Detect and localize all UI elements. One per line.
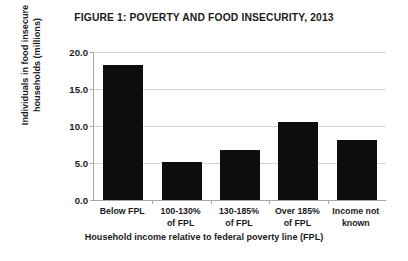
x-tick-mark	[152, 200, 153, 204]
x-axis-label-line2: of FPL	[151, 218, 209, 230]
x-axis-label-line1: 100-130%	[151, 206, 209, 218]
x-axis-label-line1: Below FPL	[93, 206, 151, 218]
bar-slot	[152, 52, 210, 200]
x-tick-mark	[211, 200, 212, 204]
y-axis-title: Individuals in food insecure households …	[18, 0, 44, 139]
y-tick-label: 5.0	[75, 158, 88, 169]
y-tick-label: 20.0	[69, 47, 88, 58]
bar-series	[94, 52, 386, 200]
bar-slot	[94, 52, 152, 200]
x-axis-label-line2: known	[327, 218, 385, 230]
x-axis-label-line1: Income not	[327, 206, 385, 218]
y-tick-label: 0.0	[75, 195, 88, 206]
bar[interactable]	[162, 162, 202, 200]
x-tick-mark	[328, 200, 329, 204]
y-tick-label: 10.0	[69, 121, 88, 132]
x-axis-label: Income notknown	[327, 206, 385, 229]
y-tick-mark	[90, 200, 94, 201]
x-axis-label-line2: of FPL	[268, 218, 326, 230]
x-axis-label: Over 185%of FPL	[268, 206, 326, 229]
x-axis-title: Household income relative to federal pov…	[0, 232, 408, 242]
x-tick-mark	[269, 200, 270, 204]
bar-slot	[211, 52, 269, 200]
x-axis-label-line2: of FPL	[210, 218, 268, 230]
x-axis-label: 130-185%of FPL	[210, 206, 268, 229]
bar[interactable]	[278, 122, 318, 200]
bar[interactable]	[337, 140, 377, 200]
x-axis-label: 100-130%of FPL	[151, 206, 209, 229]
bar-slot	[328, 52, 386, 200]
bar-slot	[269, 52, 327, 200]
bar[interactable]	[103, 65, 143, 200]
bar[interactable]	[220, 150, 260, 200]
x-axis-label-line1: Over 185%	[268, 206, 326, 218]
y-tick-label: 15.0	[69, 84, 88, 95]
chart-title: FIGURE 1: POVERTY AND FOOD INSECURITY, 2…	[0, 12, 408, 23]
plot-area: 0.05.010.015.020.0	[93, 52, 386, 201]
figure-container: FIGURE 1: POVERTY AND FOOD INSECURITY, 2…	[0, 0, 408, 261]
x-axis-category-labels: Below FPL 100-130%of FPL130-185%of FPLOv…	[93, 206, 385, 229]
x-axis-label-line1: 130-185%	[210, 206, 268, 218]
x-axis-label: Below FPL	[93, 206, 151, 229]
